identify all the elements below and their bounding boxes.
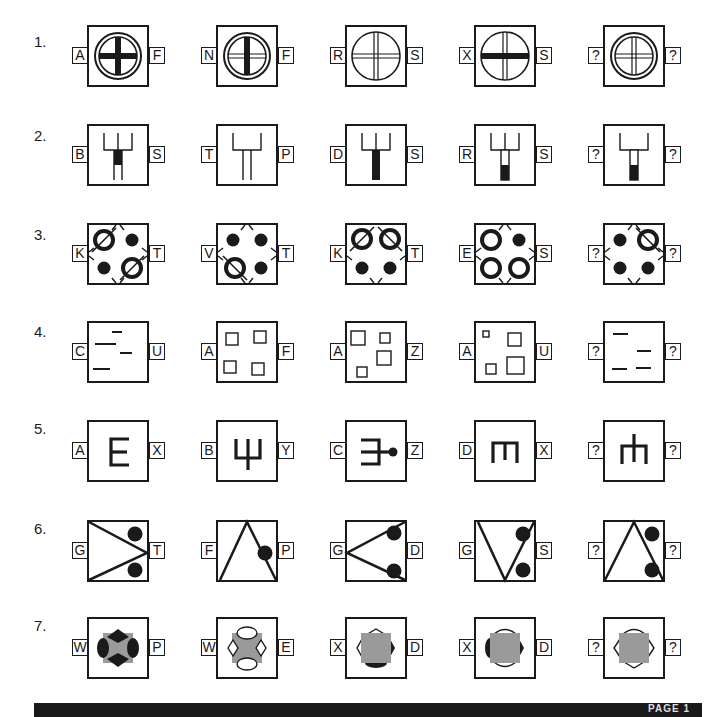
option-4-2[interactable]: A F: [199, 321, 319, 391]
right-label: T: [278, 245, 294, 262]
figure-tile: [216, 321, 278, 383]
right-label: ?: [665, 47, 681, 64]
right-label: S: [536, 47, 552, 64]
option-5-2[interactable]: B Y: [199, 420, 319, 490]
footer-bar: PAGE 1: [34, 703, 702, 717]
fork-icon: [474, 124, 536, 186]
trident-up-icon: [216, 420, 278, 482]
crosshair-circle-icon: [216, 25, 278, 87]
option-2-4[interactable]: R S: [457, 124, 577, 194]
option-1-answer[interactable]: ? ?: [586, 25, 706, 95]
right-label: ?: [665, 146, 681, 163]
option-1-1[interactable]: A F: [70, 25, 190, 95]
option-6-answer[interactable]: ? ?: [586, 520, 706, 590]
option-7-4[interactable]: X D: [457, 617, 577, 687]
question-number: 2.: [34, 127, 47, 144]
figure-tile: [216, 223, 278, 285]
right-label: F: [278, 343, 294, 360]
right-label: T: [149, 542, 165, 559]
figure-tile: [87, 124, 149, 186]
v-shape-icon: [474, 520, 536, 582]
option-6-2[interactable]: F P: [199, 520, 319, 590]
fork-icon: [216, 124, 278, 186]
figure-tile: [603, 25, 665, 87]
right-label: Z: [407, 442, 423, 459]
option-3-1[interactable]: K T: [70, 223, 190, 293]
option-3-answer[interactable]: ? ?: [586, 223, 706, 293]
option-5-4[interactable]: D X: [457, 420, 577, 490]
right-label: S: [536, 245, 552, 262]
option-4-4[interactable]: A U: [457, 321, 577, 391]
right-label: S: [536, 146, 552, 163]
m-shape-icon: [474, 420, 536, 482]
right-label: T: [407, 245, 423, 262]
figure-tile: [345, 124, 407, 186]
page-label: PAGE 1: [648, 703, 690, 714]
squares-icon: [345, 321, 407, 383]
option-7-answer[interactable]: ? ?: [586, 617, 706, 687]
option-2-2[interactable]: T P: [199, 124, 319, 194]
figure-tile: [87, 420, 149, 482]
right-label: ?: [665, 639, 681, 656]
fork-icon: [345, 124, 407, 186]
right-label: ?: [665, 542, 681, 559]
option-6-4[interactable]: G S: [457, 520, 577, 590]
option-7-3[interactable]: X D: [328, 617, 448, 687]
option-5-3[interactable]: C Z: [328, 420, 448, 490]
question-number: 5.: [34, 420, 47, 437]
option-5-answer[interactable]: ? ?: [586, 420, 706, 490]
grey-square-shapes-icon: [474, 617, 536, 679]
fork-icon: [603, 124, 665, 186]
option-4-1[interactable]: C U: [70, 321, 190, 391]
option-2-3[interactable]: D S: [328, 124, 448, 194]
option-7-1[interactable]: W P: [70, 617, 190, 687]
figure-tile: [216, 420, 278, 482]
option-2-1[interactable]: B S: [70, 124, 190, 194]
right-label: F: [278, 47, 294, 64]
figure-tile: [474, 520, 536, 582]
option-5-1[interactable]: A X: [70, 420, 190, 490]
m-shape-stem-icon: [603, 420, 665, 482]
option-6-3[interactable]: G D: [328, 520, 448, 590]
option-3-4[interactable]: E S: [457, 223, 577, 293]
question-number: 4.: [34, 323, 47, 340]
option-3-3[interactable]: K T: [328, 223, 448, 293]
right-label: P: [278, 542, 294, 559]
figure-tile: [474, 321, 536, 383]
figure-tile: [87, 520, 149, 582]
right-label: U: [149, 343, 165, 360]
option-1-4[interactable]: X S: [457, 25, 577, 95]
figure-tile: [87, 25, 149, 87]
grey-square-shapes-icon: [603, 617, 665, 679]
right-label: E: [278, 639, 294, 656]
right-label: D: [407, 639, 423, 656]
right-label: P: [278, 146, 294, 163]
option-1-3[interactable]: R S: [328, 25, 448, 95]
rings-and-dots-icon: [474, 223, 536, 285]
rings-and-dots-icon: [87, 223, 149, 285]
option-2-answer[interactable]: ? ?: [586, 124, 706, 194]
figure-tile: [345, 617, 407, 679]
figure-tile: [345, 321, 407, 383]
option-4-answer[interactable]: ? ?: [586, 321, 706, 391]
right-label: U: [536, 343, 552, 360]
rings-and-dots-icon: [603, 223, 665, 285]
option-6-1[interactable]: G T: [70, 520, 190, 590]
question-number: 6.: [34, 520, 47, 537]
figure-tile: [603, 124, 665, 186]
option-1-2[interactable]: N F: [199, 25, 319, 95]
figure-tile: [87, 223, 149, 285]
question-number: 1.: [34, 33, 47, 50]
option-3-2[interactable]: V T: [199, 223, 319, 293]
figure-tile: [345, 25, 407, 87]
right-label: ?: [665, 442, 681, 459]
figure-tile: [216, 25, 278, 87]
right-label: D: [407, 542, 423, 559]
option-4-3[interactable]: A Z: [328, 321, 448, 391]
fork-icon: [87, 124, 149, 186]
option-7-2[interactable]: W E: [199, 617, 319, 687]
crosshair-circle-icon: [87, 25, 149, 87]
right-label: T: [149, 245, 165, 262]
dashes-icon: [87, 321, 149, 383]
right-label: D: [536, 639, 552, 656]
